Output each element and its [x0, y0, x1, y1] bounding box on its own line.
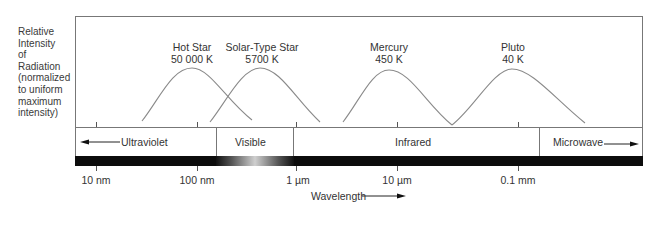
- tick-label-0.1mm: 0.1 mm: [500, 174, 535, 186]
- microwave-arrow: [604, 142, 639, 147]
- curve-temperature: 50 000 K: [171, 53, 213, 65]
- curve-label-mercury: Mercury 450 K: [370, 41, 408, 65]
- tick-label-1um: 1 µm: [286, 174, 310, 186]
- curve-label-pluto: Pluto 40 K: [501, 41, 525, 65]
- band-label-infrared: Infrared: [395, 136, 431, 148]
- curve-name: Mercury: [370, 41, 408, 53]
- band-label-visible: Visible: [235, 136, 266, 148]
- curve-temperature: 5700 K: [226, 53, 299, 65]
- curve-temperature: 450 K: [370, 53, 408, 65]
- ultraviolet-arrow: [80, 140, 120, 145]
- band-label-microwave: Microwave: [553, 136, 603, 148]
- tick-label-10nm: 10 nm: [81, 174, 110, 186]
- curve-pluto: [452, 69, 585, 125]
- spectrum-bar: [75, 156, 643, 166]
- visible-spectrum-gradient: [216, 156, 294, 166]
- curve-name: Hot Star: [171, 41, 213, 53]
- curve-name: Pluto: [501, 41, 525, 53]
- curve-hot-star: [142, 68, 252, 121]
- wavelength-arrow: [362, 194, 406, 199]
- curve-name: Solar-Type Star: [226, 41, 299, 53]
- curve-mercury: [343, 70, 452, 125]
- curve-label-solar-type-star: Solar-Type Star 5700 K: [226, 41, 299, 65]
- x-axis-label: Wavelength: [311, 190, 366, 202]
- curve-label-hot-star: Hot Star 50 000 K: [171, 41, 213, 65]
- curve-temperature: 40 K: [501, 53, 525, 65]
- tick-label-10um: 10 µm: [382, 174, 411, 186]
- band-label-ultraviolet: Ultraviolet: [121, 136, 168, 148]
- tick-label-100nm: 100 nm: [179, 174, 214, 186]
- bottom-ticks: [97, 166, 519, 171]
